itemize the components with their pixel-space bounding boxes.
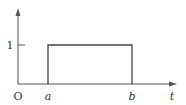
- origin-label: O: [13, 90, 22, 103]
- y-tick-label: 1: [7, 39, 14, 52]
- pulse-rectangle: [48, 45, 132, 84]
- pulse-diagram: 1 O a b t: [0, 0, 186, 105]
- pulse-end-label: b: [128, 90, 135, 103]
- x-axis-label: t: [170, 90, 175, 103]
- y-axis-arrow-icon: [16, 8, 21, 16]
- x-axis-arrow-icon: [169, 82, 177, 87]
- pulse-start-label: a: [45, 90, 52, 103]
